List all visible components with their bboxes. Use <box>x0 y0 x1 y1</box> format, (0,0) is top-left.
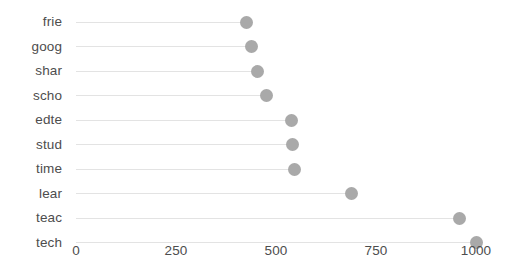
data-point-marker <box>288 163 301 176</box>
x-axis-tick-label: 500 <box>265 243 288 258</box>
category-label: time <box>0 157 62 181</box>
data-point-marker <box>285 114 298 127</box>
stem-line <box>76 193 351 194</box>
stem-line <box>76 71 257 72</box>
x-axis-tick-label: 1000 <box>461 243 491 258</box>
data-point-marker <box>240 16 253 29</box>
category-label: frie <box>0 10 62 34</box>
stem-line <box>76 46 251 47</box>
data-point-marker <box>251 65 264 78</box>
chart-row: scho <box>0 84 532 108</box>
stem-line <box>76 218 459 219</box>
stem-line <box>76 22 246 23</box>
category-label: scho <box>0 84 62 108</box>
data-point-marker <box>245 40 258 53</box>
stem-line <box>76 144 292 145</box>
chart-row: edte <box>0 108 532 132</box>
stem-line <box>76 95 266 96</box>
chart-row: shar <box>0 59 532 83</box>
category-label: goog <box>0 35 62 59</box>
lollipop-chart: friegoogsharschoedtestudtimelearteactech… <box>0 0 532 278</box>
category-label: lear <box>0 182 62 206</box>
category-label: teac <box>0 206 62 230</box>
x-axis-tick-label: 750 <box>365 243 388 258</box>
data-point-marker <box>345 187 358 200</box>
stem-line <box>76 120 291 121</box>
stem-line <box>76 169 294 170</box>
chart-row: lear <box>0 182 532 206</box>
data-point-marker <box>260 89 273 102</box>
chart-row: teac <box>0 206 532 230</box>
category-label: stud <box>0 133 62 157</box>
category-label: edte <box>0 108 62 132</box>
chart-row: stud <box>0 133 532 157</box>
chart-row: frie <box>0 10 532 34</box>
category-label: shar <box>0 59 62 83</box>
plot-area: friegoogsharschoedtestudtimelearteactech <box>0 0 532 278</box>
data-point-marker <box>453 212 466 225</box>
x-axis: 02505007501000 <box>0 243 532 267</box>
x-axis-tick-label: 0 <box>72 243 80 258</box>
chart-row: time <box>0 157 532 181</box>
x-axis-tick-label: 250 <box>165 243 188 258</box>
chart-row: goog <box>0 35 532 59</box>
data-point-marker <box>286 138 299 151</box>
